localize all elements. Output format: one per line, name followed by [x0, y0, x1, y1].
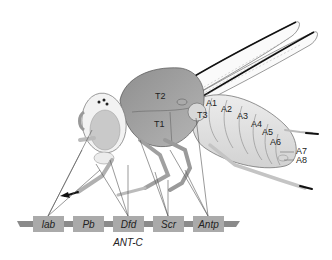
- gene-label-pb: Pb: [82, 219, 95, 230]
- gene-label-dfd: Dfd: [121, 219, 137, 230]
- thorax: [120, 68, 206, 147]
- complex-label: ANT-C: [112, 237, 143, 248]
- segment-label-a4: A4: [251, 119, 262, 129]
- gene-label-antp: Antp: [197, 219, 219, 230]
- gene-label-lab: lab: [42, 219, 56, 230]
- segment-label-a8: A8: [296, 155, 307, 165]
- segment-label-a6: A6: [270, 137, 281, 147]
- segment-label-a2: A2: [221, 104, 232, 114]
- segment-label-t2: T2: [155, 91, 166, 101]
- gene-scr: Scr: [153, 216, 184, 232]
- gene-dfd: Dfd: [113, 216, 144, 232]
- segment-label-a5: A5: [262, 127, 273, 137]
- segment-label-t3: T3: [197, 110, 208, 120]
- gene-lab: lab: [33, 216, 64, 232]
- gene-antp: Antp: [193, 216, 224, 232]
- segment-label-t1: T1: [154, 119, 165, 129]
- segment-label-a1: A1: [206, 98, 217, 108]
- gene-label-scr: Scr: [161, 219, 177, 230]
- fly-diagram: T1 T2 T3 A1 A2 A3 A4 A5 A6 A7 A8 lab Pb …: [0, 0, 332, 260]
- ant-c-gene-complex: lab Pb Dfd Scr Antp ANT-C: [17, 216, 240, 248]
- segment-label-a3: A3: [237, 111, 248, 121]
- gene-pb: Pb: [73, 216, 104, 232]
